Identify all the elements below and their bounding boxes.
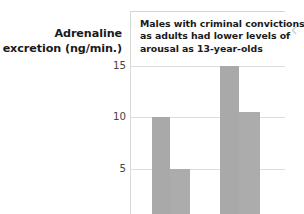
bar-group1-a	[152, 117, 170, 214]
prev-chevron-icon[interactable]: ‹	[285, 19, 303, 39]
chart-figure: Adrenaline excretion (ng/min.) Males wit…	[0, 0, 304, 214]
ytick-label-5: 5	[100, 163, 126, 174]
ytick-label-10: 10	[100, 111, 126, 122]
bar-series	[130, 11, 285, 214]
bar-group1-b	[170, 169, 190, 214]
y-axis-title-line-2: excretion (ng/min.)	[0, 42, 122, 57]
ytick-10: 10	[96, 111, 126, 122]
ytick-5: 5	[96, 163, 126, 174]
ytick-label-15: 15	[100, 60, 126, 71]
ytick-15: 15	[96, 60, 126, 71]
bar-group2-b	[239, 112, 260, 214]
y-axis-title-line-1: Adrenaline	[0, 27, 122, 42]
bar-group2-a	[220, 66, 239, 214]
y-axis-title: Adrenaline excretion (ng/min.)	[0, 27, 122, 56]
